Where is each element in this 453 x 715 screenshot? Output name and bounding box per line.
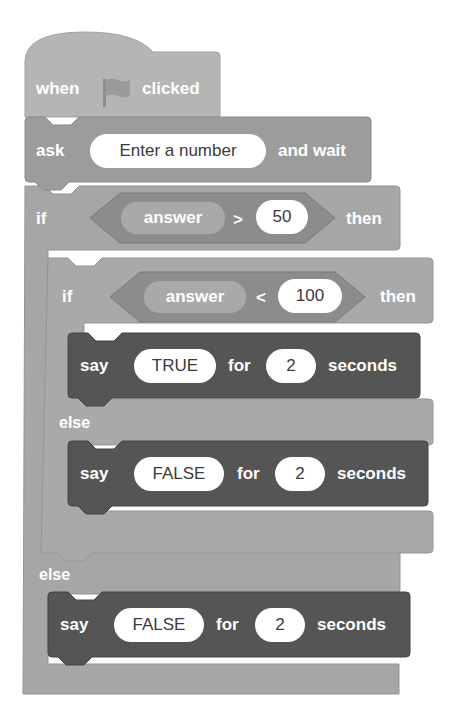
inner-operator: <	[256, 288, 266, 308]
say-false-inner-seconds-label: seconds	[337, 464, 406, 484]
ask-label: ask	[36, 141, 64, 161]
say-false-inner-label: say	[80, 464, 108, 484]
outer-operator: >	[233, 210, 243, 230]
say-false-outer-label: say	[60, 615, 88, 635]
hat-when-label: when	[36, 79, 79, 99]
say-true-label: say	[80, 356, 108, 376]
say-false-inner-for-label: for	[237, 464, 260, 484]
say-true-message-input[interactable]: TRUE	[134, 349, 216, 383]
say-false-inner-secs-input[interactable]: 2	[275, 457, 325, 491]
inner-if-label: if	[62, 287, 72, 307]
inner-then-label: then	[380, 287, 416, 307]
outer-else-label: else	[39, 565, 70, 585]
say-true-for-label: for	[228, 356, 251, 376]
when-flag-clicked-block[interactable]	[25, 32, 220, 117]
inner-value-input[interactable]: 100	[278, 279, 342, 313]
say-false-inner-message-input[interactable]: FALSE	[134, 457, 224, 491]
inner-answer-reporter[interactable]: answer	[143, 280, 247, 314]
say-false-outer-for-label: for	[216, 615, 239, 635]
hat-clicked-label: clicked	[142, 79, 200, 99]
say-true-seconds-label: seconds	[328, 356, 397, 376]
outer-then-label: then	[346, 209, 382, 229]
say-false-outer-seconds-label: seconds	[317, 615, 386, 635]
outer-value-input[interactable]: 50	[256, 200, 308, 234]
say-false-outer-secs-input[interactable]: 2	[255, 608, 305, 642]
say-true-secs-input[interactable]: 2	[266, 349, 316, 383]
outer-if-label: if	[36, 209, 46, 229]
say-false-outer-message-input[interactable]: FALSE	[114, 608, 204, 642]
ask-and-wait-label: and wait	[278, 141, 346, 161]
inner-else-label: else	[59, 413, 90, 433]
outer-answer-reporter[interactable]: answer	[120, 201, 226, 235]
ask-question-input[interactable]: Enter a number	[90, 134, 266, 168]
